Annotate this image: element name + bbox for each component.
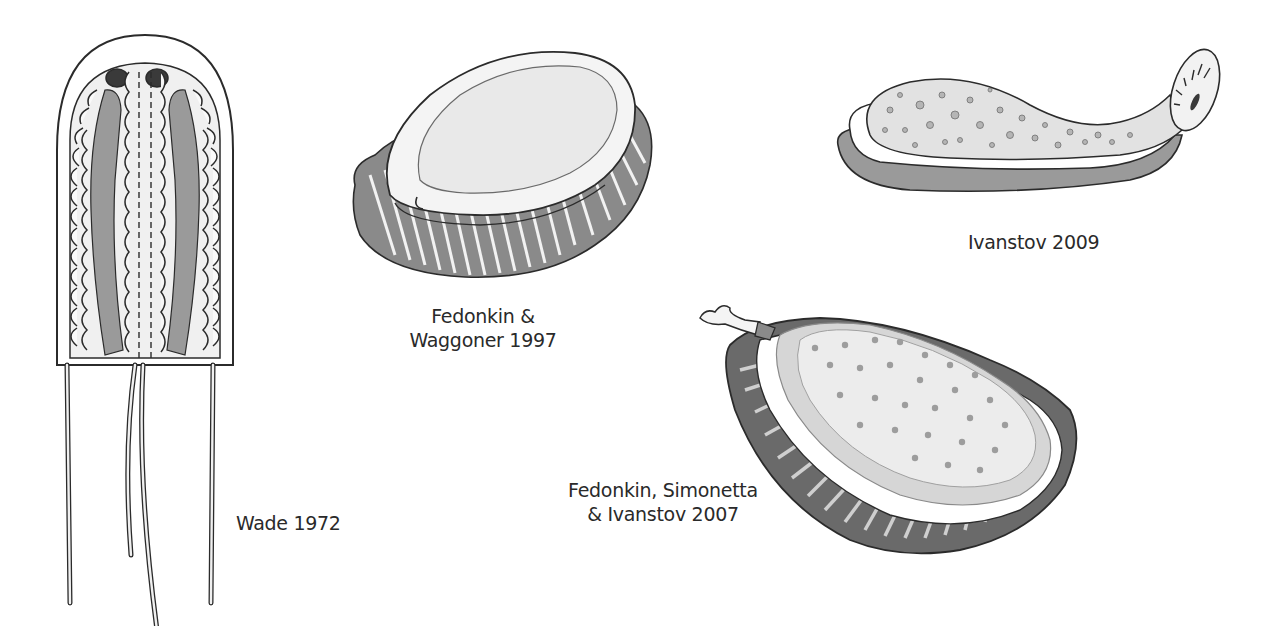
wade-1972-illustration: [45, 30, 245, 610]
label-ivanstov-2009: Ivanstov 2009: [968, 230, 1099, 254]
label-line: Ivanstov 2009: [968, 231, 1099, 253]
proboscis: [700, 306, 760, 335]
label-fedonkin-simonetta-ivanstov-2007: Fedonkin, Simonetta & Ivanstov 2007: [563, 478, 763, 526]
fedonkin-waggoner-illustration: [345, 45, 665, 285]
figure-fedonkin-waggoner-1997: [345, 45, 665, 285]
label-line: & Ivanstov 2007: [563, 502, 763, 526]
label-line: Waggoner 1997: [398, 328, 568, 352]
label-line: Fedonkin &: [398, 304, 568, 328]
label-line: Fedonkin, Simonetta: [563, 478, 763, 502]
ivanstov-illustration: [830, 50, 1225, 200]
label-fedonkin-waggoner-1997: Fedonkin & Waggoner 1997: [398, 304, 568, 352]
figure-wade-1972: [45, 30, 245, 610]
label-line: Wade 1972: [236, 512, 341, 534]
figure-ivanstov-2009: [830, 50, 1225, 200]
label-wade-1972: Wade 1972: [236, 511, 341, 535]
